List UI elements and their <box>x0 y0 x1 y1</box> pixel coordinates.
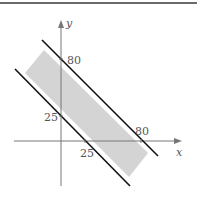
tick-label-x-25: 25 <box>80 147 94 160</box>
x-axis-arrow-icon <box>174 138 182 144</box>
y-axis-label: y <box>65 17 73 30</box>
tick-label-y-25: 25 <box>44 111 58 124</box>
tick-label-x-80: 80 <box>135 125 149 138</box>
tick-label-y-80: 80 <box>67 54 81 67</box>
x-axis-label: x <box>176 146 183 159</box>
diagram-canvas: y x 80 25 25 80 <box>0 0 197 201</box>
y-axis-arrow-icon <box>58 20 64 28</box>
